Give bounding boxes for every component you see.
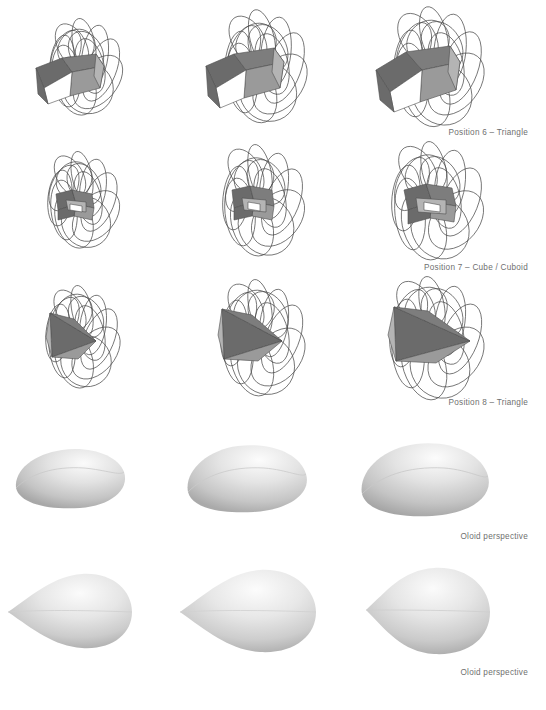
- figure-cell-p6-left: [0, 14, 182, 132]
- polyhedron-cuboid: [56, 190, 94, 220]
- teardrop-solid: [0, 550, 182, 668]
- wireframe-diagram: [0, 285, 182, 403]
- caption-oloid-b: Oloid perspective: [208, 668, 528, 677]
- caption-position-6: Position 6 – Triangle: [208, 128, 528, 137]
- polyhedron-cuboid: [232, 186, 274, 220]
- figure-cell-oloid-b-left: [0, 550, 182, 668]
- polyhedron-triangle: [376, 46, 460, 112]
- figure-cell-p8-left: [0, 285, 182, 403]
- polyhedron-triangle: [206, 48, 284, 108]
- polyhedron-triangle: [36, 54, 104, 104]
- figure-cell-p8-right: [352, 285, 534, 403]
- wireframe-diagram: [352, 285, 534, 403]
- caption-position-7: Position 7 – Cube / Cuboid: [208, 263, 528, 272]
- oloid-solid: [0, 420, 182, 538]
- polyhedron-cuboid: [404, 184, 456, 224]
- figure-cell-p6-center: [174, 14, 356, 132]
- teardrop-solid: [174, 550, 356, 668]
- wireframe-diagram: [352, 14, 534, 132]
- wireframe-diagram: [174, 285, 356, 403]
- teardrop-solid: [352, 550, 534, 668]
- figure-cell-oloid-b-center: [174, 550, 356, 668]
- caption-oloid-a: Oloid perspective: [208, 532, 528, 541]
- figure-cell-p7-center: [174, 150, 356, 268]
- figure-cell-oloid-a-right: [352, 420, 534, 538]
- figure-row-oloid-b: [0, 550, 546, 685]
- wireframe-diagram: [174, 14, 356, 132]
- oloid-solid: [174, 420, 356, 538]
- figure-cell-oloid-a-center: [174, 420, 356, 538]
- figure-cell-p7-right: [352, 150, 534, 268]
- figure-plate: Position 6 – Triangle: [0, 0, 546, 710]
- figure-cell-p6-right: [352, 14, 534, 132]
- wireframe-diagram: [0, 150, 182, 268]
- wireframe-diagram: [174, 150, 356, 268]
- figure-cell-p8-center: [174, 285, 356, 403]
- polyhedron-triangle: [46, 313, 96, 359]
- oloid-solid: [352, 420, 534, 538]
- figure-cell-p7-left: [0, 150, 182, 268]
- wireframe-diagram: [0, 14, 182, 132]
- wireframe-diagram: [352, 150, 534, 268]
- oloid-body: [16, 449, 125, 508]
- figure-cell-oloid-b-right: [352, 550, 534, 668]
- figure-cell-oloid-a-left: [0, 420, 182, 538]
- caption-position-8: Position 8 – Triangle: [208, 398, 528, 407]
